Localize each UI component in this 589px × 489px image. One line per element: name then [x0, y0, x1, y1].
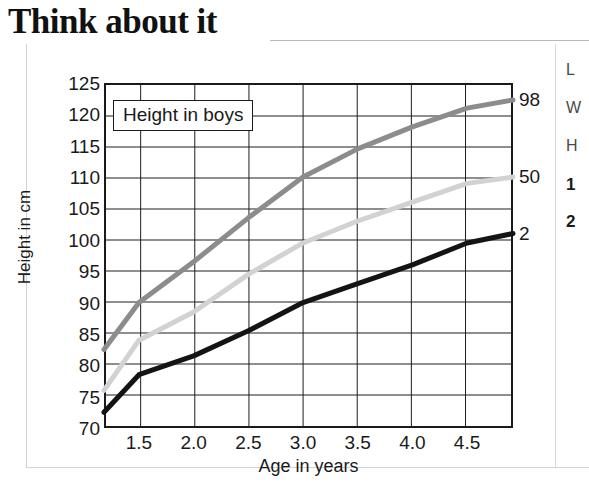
- x-axis-ticks: 1.52.02.53.03.54.04.5: [0, 432, 540, 458]
- y-tick-label: 85: [54, 325, 100, 344]
- side-text-line: H: [566, 138, 589, 154]
- percentile-curves: [104, 83, 513, 428]
- y-axis-ticks: 707580859095100105110115120125: [50, 52, 100, 472]
- y-tick-label: 100: [54, 231, 100, 250]
- percentile-label-98: 98: [519, 90, 540, 109]
- y-tick-label: 95: [54, 262, 100, 281]
- percentile-label-50: 50: [519, 167, 540, 186]
- y-tick-label: 90: [54, 294, 100, 313]
- y-tick-label: 80: [54, 356, 100, 375]
- side-list-number: 2: [566, 213, 589, 230]
- y-tick-label: 110: [54, 168, 100, 187]
- y-tick-label: 120: [54, 105, 100, 124]
- x-tick-label: 4.0: [388, 432, 436, 454]
- side-text-line: L: [566, 62, 589, 78]
- title-divider: [270, 40, 589, 41]
- x-tick-label: 4.5: [443, 432, 491, 454]
- x-tick-label: 2.5: [224, 432, 272, 454]
- x-tick-label: 1.5: [115, 432, 163, 454]
- x-tick-label: 3.0: [279, 432, 327, 454]
- chart-legend-label: Height in boys: [113, 100, 253, 131]
- side-text-line: W: [566, 100, 589, 116]
- y-tick-label: 75: [54, 388, 100, 407]
- y-tick-label: 115: [54, 137, 100, 156]
- growth-chart: Height in cm 707580859095100105110115120…: [0, 52, 540, 472]
- y-tick-label: 125: [54, 74, 100, 93]
- y-axis-title: Height in cm: [15, 167, 35, 307]
- panel-right-border: [555, 44, 556, 468]
- y-tick-label: 105: [54, 199, 100, 218]
- side-list-number: 1: [566, 176, 589, 193]
- page-title: Think about it: [8, 2, 217, 42]
- percentile-label-2: 2: [519, 224, 530, 243]
- side-text-column: LWH12: [566, 62, 589, 262]
- x-axis-title: Age in years: [104, 456, 513, 477]
- x-tick-label: 2.0: [170, 432, 218, 454]
- title-bar: Think about it: [0, 0, 589, 52]
- x-tick-label: 3.5: [334, 432, 382, 454]
